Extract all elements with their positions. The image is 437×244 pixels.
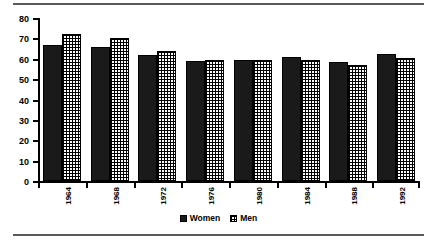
bar-men-1992[interactable] xyxy=(396,58,415,181)
bar-men-1976[interactable] xyxy=(205,60,224,181)
x-axis-tick xyxy=(229,181,231,188)
bar-men-1988[interactable] xyxy=(348,65,367,181)
x-axis-label-1992: 1992 xyxy=(399,187,407,205)
y-axis-tick-label: 20 xyxy=(19,137,29,146)
bar-group xyxy=(234,60,272,181)
x-axis-label-1984: 1984 xyxy=(304,187,312,205)
bar-women-1964[interactable] xyxy=(43,45,62,182)
y-axis-tick-label: 50 xyxy=(19,76,29,85)
y-axis-tick-label: 40 xyxy=(19,96,29,105)
bar-women-1968[interactable] xyxy=(91,47,110,181)
bar-group xyxy=(186,60,224,181)
y-axis-tick: 60 xyxy=(33,59,40,61)
x-axis-tick xyxy=(134,181,136,188)
bar-women-1972[interactable] xyxy=(138,55,157,181)
x-axis-tick xyxy=(86,181,88,188)
bar-women-1976[interactable] xyxy=(186,61,205,181)
bar-group xyxy=(282,57,320,181)
y-axis-tick: 20 xyxy=(33,140,40,142)
bar-men-1968[interactable] xyxy=(110,38,129,181)
legend-label: Women xyxy=(190,214,221,223)
bottom-divider-rule xyxy=(13,234,424,236)
bar-men-1964[interactable] xyxy=(62,34,81,181)
y-axis-tick-label: 60 xyxy=(19,55,29,64)
y-axis-tick: 80 xyxy=(33,18,40,20)
bar-women-1992[interactable] xyxy=(377,54,396,181)
chart-legend: WomenMen xyxy=(0,214,437,223)
bar-men-1984[interactable] xyxy=(301,60,320,181)
bar-group xyxy=(329,62,367,181)
x-axis-label-1964: 1964 xyxy=(65,187,73,205)
top-divider-rule xyxy=(13,3,424,5)
y-axis-tick-label: 70 xyxy=(19,35,29,44)
x-axis-tick xyxy=(277,181,279,188)
y-axis-tick: 50 xyxy=(33,79,40,81)
bar-group xyxy=(91,38,129,181)
bar-men-1972[interactable] xyxy=(157,51,176,181)
y-axis-tick-label: 30 xyxy=(19,116,29,125)
x-axis-tick xyxy=(325,181,327,188)
y-axis-tick: 70 xyxy=(33,38,40,40)
y-axis-tick-label: 80 xyxy=(19,15,29,24)
y-axis-tick-label: 10 xyxy=(19,157,29,166)
y-axis-tick: 30 xyxy=(33,120,40,122)
x-axis-label-1968: 1968 xyxy=(113,187,121,205)
legend-swatch-men-icon xyxy=(230,215,237,222)
legend-item-men[interactable]: Men xyxy=(230,214,257,223)
bar-women-1988[interactable] xyxy=(329,62,348,181)
plot-area: 01020304050607080 xyxy=(38,18,420,183)
x-axis-tick xyxy=(181,181,183,188)
legend-swatch-women-icon xyxy=(180,215,187,222)
x-axis-label-1976: 1976 xyxy=(208,187,216,205)
bar-group xyxy=(377,54,415,181)
x-axis-label-1972: 1972 xyxy=(160,187,168,205)
bar-group xyxy=(43,34,81,181)
x-axis-tick xyxy=(372,181,374,188)
bar-women-1980[interactable] xyxy=(234,60,253,181)
y-axis-tick: 40 xyxy=(33,100,40,102)
legend-item-women[interactable]: Women xyxy=(180,214,221,223)
legend-label: Men xyxy=(240,214,257,223)
x-axis-tick xyxy=(38,181,40,188)
y-axis-tick-label: 0 xyxy=(24,178,29,187)
bar-group xyxy=(138,51,176,181)
y-axis-tick: 10 xyxy=(33,161,40,163)
bar-women-1984[interactable] xyxy=(282,57,301,181)
x-axis-label-1980: 1980 xyxy=(256,187,264,205)
x-axis-tick xyxy=(418,181,420,188)
bar-men-1980[interactable] xyxy=(253,60,272,181)
chart-figure: 01020304050607080 1964196819721976198019… xyxy=(0,0,437,244)
x-axis-label-1988: 1988 xyxy=(351,187,359,205)
